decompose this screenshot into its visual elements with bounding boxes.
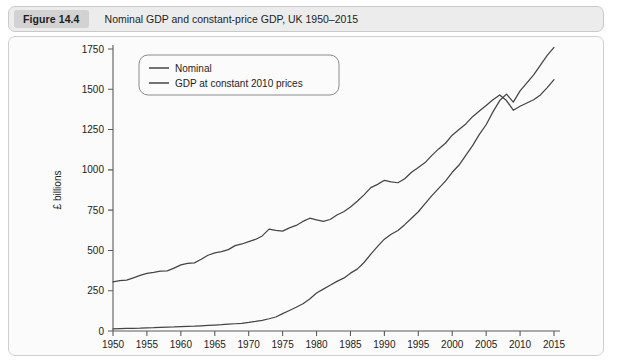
y-tick-label: 250: [87, 285, 104, 296]
x-tick-label: 1985: [339, 339, 362, 350]
figure-header: Figure 14.4 Nominal GDP and constant-pri…: [8, 6, 604, 32]
x-tick-label: 1970: [238, 339, 261, 350]
chart-panel: 02505007501000125015001750 1950195519601…: [8, 36, 604, 356]
y-tick-label: 1250: [82, 124, 105, 135]
legend-label-2: GDP at constant 2010 prices: [175, 78, 303, 89]
legend-label-1: Nominal: [175, 63, 212, 74]
x-tick-label: 1980: [305, 339, 328, 350]
x-tick-label: 1955: [136, 339, 159, 350]
y-tick-label: 750: [87, 205, 104, 216]
x-tick-label: 1960: [170, 339, 193, 350]
x-tick-label: 1975: [271, 339, 294, 350]
x-tick-label: 2015: [543, 339, 566, 350]
series-line-2: [113, 80, 554, 282]
chart-legend: NominalGDP at constant 2010 prices: [139, 55, 339, 95]
line-chart: 02505007501000125015001750 1950195519601…: [9, 37, 603, 355]
y-tick-label: 0: [98, 326, 104, 337]
x-tick-label: 1990: [373, 339, 396, 350]
x-tick-label: 2000: [441, 339, 464, 350]
x-tick-label: 1995: [407, 339, 430, 350]
x-tick-label: 1950: [102, 339, 125, 350]
x-tick-label: 2005: [475, 339, 498, 350]
x-tick-label: 1965: [204, 339, 227, 350]
x-tick-label: 2010: [509, 339, 532, 350]
legend-box: [139, 55, 339, 95]
figure-container: Figure 14.4 Nominal GDP and constant-pri…: [0, 0, 620, 364]
x-axis: 1950195519601965197019751980198519901995…: [102, 331, 566, 350]
y-tick-label: 1750: [82, 44, 105, 55]
y-tick-label: 500: [87, 245, 104, 256]
y-axis: 02505007501000125015001750: [82, 44, 113, 337]
y-tick-label: 1000: [82, 164, 105, 175]
y-axis-title: £ billions: [52, 171, 63, 210]
figure-title: Nominal GDP and constant-price GDP, UK 1…: [105, 13, 359, 25]
figure-number-badge: Figure 14.4: [14, 10, 89, 28]
y-tick-label: 1500: [82, 84, 105, 95]
